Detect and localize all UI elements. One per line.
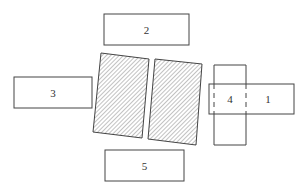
box-4: 4 xyxy=(214,65,246,145)
hatched-panel-left xyxy=(93,53,149,138)
box-5-label: 5 xyxy=(142,160,148,172)
layout-diagram: 2 3 5 1 4 xyxy=(0,0,304,192)
hatched-panel-right xyxy=(148,59,202,145)
box-5: 5 xyxy=(105,150,184,181)
box-2: 2 xyxy=(104,14,189,45)
box-4-label: 4 xyxy=(227,93,233,105)
box-3-label: 3 xyxy=(50,87,56,99)
box-2-label: 2 xyxy=(144,24,150,36)
box-3: 3 xyxy=(14,77,92,108)
box-1-label: 1 xyxy=(265,93,271,105)
box-1: 1 xyxy=(209,84,294,114)
